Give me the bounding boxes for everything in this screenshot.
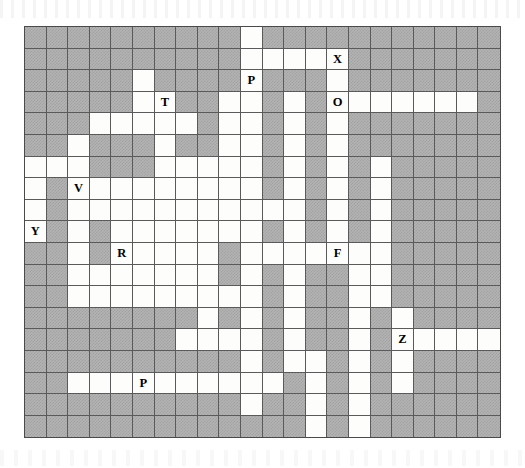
crossword-grid[interactable]: XPTOVYRFZP: [25, 27, 500, 437]
grid-cell-open[interactable]: [219, 178, 241, 200]
grid-cell-open[interactable]: [219, 329, 241, 351]
grid-cell-open[interactable]: [133, 243, 155, 265]
grid-cell-open[interactable]: [90, 113, 112, 135]
grid-cell-open[interactable]: [241, 308, 263, 330]
grid-cell-open[interactable]: [198, 265, 220, 287]
grid-cell-open[interactable]: [176, 157, 198, 179]
grid-cell-open[interactable]: [198, 221, 220, 243]
grid-cell-open[interactable]: [349, 286, 371, 308]
grid-cell-open[interactable]: [176, 265, 198, 287]
grid-cell-open[interactable]: [155, 286, 177, 308]
grid-cell-open[interactable]: [68, 200, 90, 222]
grid-cell-open[interactable]: [219, 373, 241, 395]
grid-cell-open[interactable]: [284, 92, 306, 114]
grid-cell-open[interactable]: [176, 113, 198, 135]
grid-cell-open[interactable]: [198, 308, 220, 330]
grid-cell-open[interactable]: [155, 157, 177, 179]
grid-cell-open[interactable]: [478, 329, 500, 351]
grid-cell-open[interactable]: [371, 243, 393, 265]
grid-cell-open[interactable]: [284, 49, 306, 71]
grid-cell-open[interactable]: [392, 351, 414, 373]
grid-cell-open[interactable]: [371, 286, 393, 308]
grid-cell-open[interactable]: [414, 92, 436, 114]
grid-cell-open[interactable]: [155, 135, 177, 157]
grid-cell-open[interactable]: [176, 200, 198, 222]
grid-cell-open[interactable]: [284, 265, 306, 287]
grid-cell-open[interactable]: [111, 200, 133, 222]
grid-cell-open[interactable]: [241, 329, 263, 351]
grid-cell-open[interactable]: [392, 92, 414, 114]
grid-cell-open[interactable]: [284, 351, 306, 373]
grid-cell-open[interactable]: R: [111, 243, 133, 265]
grid-cell-open[interactable]: [68, 286, 90, 308]
grid-cell-open[interactable]: [219, 135, 241, 157]
grid-cell-open[interactable]: [68, 135, 90, 157]
grid-cell-open[interactable]: [306, 351, 328, 373]
grid-cell-open[interactable]: [241, 135, 263, 157]
grid-cell-open[interactable]: [155, 113, 177, 135]
grid-cell-open[interactable]: [90, 286, 112, 308]
grid-cell-open[interactable]: [284, 329, 306, 351]
grid-cell-open[interactable]: F: [327, 243, 349, 265]
grid-cell-open[interactable]: [241, 221, 263, 243]
grid-cell-open[interactable]: [198, 243, 220, 265]
grid-cell-open[interactable]: [327, 157, 349, 179]
grid-cell-open[interactable]: P: [133, 373, 155, 395]
grid-cell-open[interactable]: [90, 200, 112, 222]
grid-cell-open[interactable]: [349, 308, 371, 330]
grid-cell-open[interactable]: [349, 329, 371, 351]
grid-cell-open[interactable]: [241, 200, 263, 222]
grid-cell-open[interactable]: [306, 373, 328, 395]
grid-cell-open[interactable]: [349, 373, 371, 395]
grid-cell-open[interactable]: [241, 394, 263, 416]
grid-cell-open[interactable]: [25, 157, 47, 179]
grid-cell-open[interactable]: [349, 416, 371, 438]
grid-cell-open[interactable]: [155, 200, 177, 222]
grid-cell-open[interactable]: [241, 157, 263, 179]
grid-cell-open[interactable]: [68, 243, 90, 265]
grid-cell-open[interactable]: [68, 157, 90, 179]
grid-cell-open[interactable]: [241, 49, 263, 71]
grid-cell-open[interactable]: [133, 265, 155, 287]
grid-cell-open[interactable]: [241, 92, 263, 114]
grid-cell-open[interactable]: [198, 373, 220, 395]
grid-cell-open[interactable]: [219, 221, 241, 243]
grid-cell-open[interactable]: [371, 200, 393, 222]
grid-cell-open[interactable]: [111, 265, 133, 287]
grid-cell-open[interactable]: [90, 373, 112, 395]
grid-cell-open[interactable]: [25, 178, 47, 200]
grid-cell-open[interactable]: [241, 113, 263, 135]
grid-cell-open[interactable]: [263, 243, 285, 265]
grid-cell-open[interactable]: [241, 373, 263, 395]
grid-cell-open[interactable]: [457, 329, 479, 351]
grid-cell-open[interactable]: [284, 243, 306, 265]
grid-cell-open[interactable]: [133, 221, 155, 243]
grid-cell-open[interactable]: [327, 135, 349, 157]
grid-cell-open[interactable]: X: [327, 49, 349, 71]
grid-cell-open[interactable]: [68, 373, 90, 395]
grid-cell-open[interactable]: [90, 178, 112, 200]
grid-cell-open[interactable]: P: [241, 70, 263, 92]
grid-cell-open[interactable]: [155, 373, 177, 395]
grid-cell-open[interactable]: [414, 329, 436, 351]
grid-cell-open[interactable]: [111, 373, 133, 395]
grid-cell-open[interactable]: [68, 221, 90, 243]
grid-cell-open[interactable]: [68, 265, 90, 287]
grid-cell-open[interactable]: [176, 221, 198, 243]
grid-cell-open[interactable]: [176, 286, 198, 308]
grid-cell-open[interactable]: [349, 394, 371, 416]
grid-cell-open[interactable]: Y: [25, 221, 47, 243]
grid-cell-open[interactable]: [284, 178, 306, 200]
grid-cell-open[interactable]: [371, 265, 393, 287]
grid-cell-open[interactable]: [176, 373, 198, 395]
grid-cell-open[interactable]: [349, 265, 371, 287]
grid-cell-open[interactable]: [176, 243, 198, 265]
grid-cell-open[interactable]: [198, 286, 220, 308]
grid-cell-open[interactable]: [219, 200, 241, 222]
grid-cell-open[interactable]: [263, 373, 285, 395]
grid-cell-open[interactable]: [284, 308, 306, 330]
grid-cell-open[interactable]: [155, 178, 177, 200]
grid-cell-open[interactable]: [263, 49, 285, 71]
grid-cell-open[interactable]: [306, 49, 328, 71]
grid-cell-open[interactable]: [241, 178, 263, 200]
